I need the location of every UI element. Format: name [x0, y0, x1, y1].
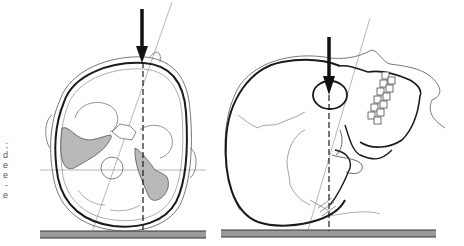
- left-arrow-head-icon: [136, 46, 148, 63]
- right-axis-line: [308, 18, 370, 230]
- right-arrow-head-icon: [323, 76, 335, 95]
- right-skull-panel: [221, 18, 445, 237]
- teeth: [368, 72, 395, 124]
- coronal-suture: [238, 112, 305, 128]
- right-petrous-shading: [135, 148, 169, 200]
- left-skull-panel: [40, 2, 206, 238]
- right-floor: [221, 230, 436, 237]
- left-petrous-shading: [61, 128, 112, 169]
- left-floor: [40, 231, 206, 238]
- lambdoid-suture: [287, 130, 310, 205]
- skull-illustration: [0, 0, 464, 246]
